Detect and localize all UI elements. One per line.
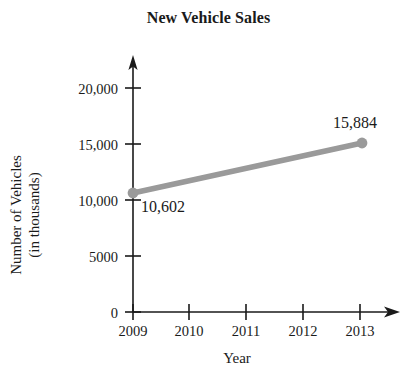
- plot-area: [0, 0, 417, 369]
- chart-figure: New Vehicle Sales Number of Vehicles (in…: [0, 0, 417, 369]
- y-axis: [128, 55, 137, 312]
- data-point-2013: [357, 138, 368, 149]
- series-line: [133, 143, 362, 193]
- data-point-2009: [128, 188, 139, 199]
- data-series-new-vehicle-sales: [128, 138, 368, 199]
